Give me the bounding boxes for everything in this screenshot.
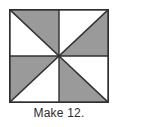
quadrant-top-right [59, 9, 109, 56]
pinwheel-svg [9, 9, 109, 103]
figure-caption: Make 12. [0, 105, 118, 121]
figure-container: Make 12. [0, 0, 146, 127]
quadrant-top-left [9, 9, 59, 56]
quadrant-bottom-right [59, 56, 109, 103]
pinwheel-block-diagram [9, 9, 109, 103]
quadrant-bottom-left [9, 56, 59, 103]
